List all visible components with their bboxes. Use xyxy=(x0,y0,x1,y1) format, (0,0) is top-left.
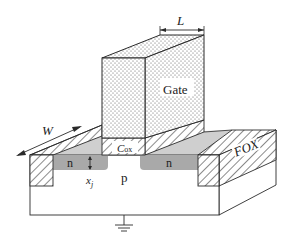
length-label: L xyxy=(177,14,184,27)
gate-label: Gate xyxy=(163,83,188,96)
junction-depth-label: xj xyxy=(86,175,93,186)
drain-n-label: n xyxy=(166,157,172,169)
source-n-label: n xyxy=(67,157,73,169)
substrate-p-label: p xyxy=(121,171,128,184)
left-fox-front xyxy=(30,155,53,186)
source-n-region xyxy=(53,155,108,170)
gate-front xyxy=(102,58,145,138)
ground-icon xyxy=(115,215,133,231)
right-fox-front xyxy=(198,155,219,186)
cox-label: Cox xyxy=(117,143,132,154)
mosfet-diagram: Gate L W Cox n n p xj FOX xyxy=(0,0,292,249)
width-label: W xyxy=(42,124,53,137)
cox-label-sub: ox xyxy=(124,145,132,154)
xj-sub: j xyxy=(91,180,93,189)
